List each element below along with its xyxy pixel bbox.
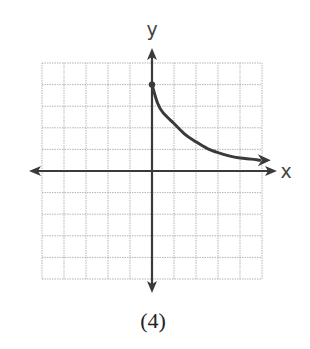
x-axis-label: x <box>280 160 291 182</box>
curve-path <box>152 85 260 161</box>
start-point-dot-icon <box>149 81 155 87</box>
graph: y x (4) <box>0 0 310 349</box>
y-axis-label: y <box>146 18 157 40</box>
figure-caption: (4) <box>140 308 166 333</box>
curve <box>149 81 271 166</box>
